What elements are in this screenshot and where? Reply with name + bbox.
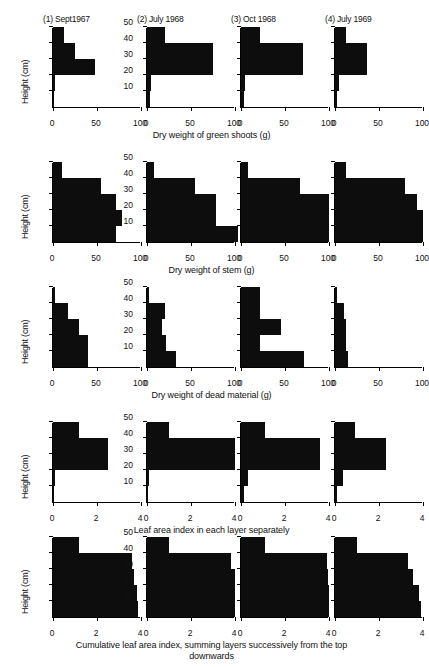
bar-layer-0-10 bbox=[241, 91, 244, 107]
plot-area: 1020304050 bbox=[52, 163, 140, 243]
x-tick bbox=[335, 502, 336, 506]
bar-layer-20-30 bbox=[335, 194, 417, 210]
panel-row1-col4: 050100 bbox=[334, 28, 422, 108]
panel-row4-col4: 024 bbox=[334, 423, 422, 503]
y-tick-label: 40 bbox=[124, 543, 133, 553]
panel-row5-col2: 024 bbox=[146, 538, 234, 618]
bar-group bbox=[241, 28, 328, 107]
bar-group bbox=[241, 538, 328, 617]
bar-layer-30-40 bbox=[147, 178, 195, 194]
x-tick-label: 0 bbox=[50, 628, 55, 638]
y-tick bbox=[237, 90, 241, 91]
y-tick bbox=[331, 42, 335, 43]
bar-group bbox=[241, 163, 328, 242]
panel-title-4: (4) July 1969 bbox=[325, 14, 372, 24]
bar-layer-40-50 bbox=[335, 27, 346, 43]
y-tick bbox=[331, 26, 335, 27]
x-tick bbox=[53, 617, 54, 621]
y-tick bbox=[143, 334, 147, 335]
y-tick bbox=[49, 421, 53, 422]
y-tick bbox=[143, 74, 147, 75]
bar-group bbox=[241, 288, 328, 367]
y-tick bbox=[143, 568, 147, 569]
x-tick bbox=[141, 242, 142, 246]
x-tick bbox=[379, 502, 380, 506]
x-tick bbox=[141, 107, 142, 111]
y-tick bbox=[49, 600, 53, 601]
panel-title-1: (1) Sept1967 bbox=[43, 14, 90, 24]
x-tick-label: 0 bbox=[144, 513, 149, 523]
bar-layer-0-10 bbox=[335, 486, 337, 502]
panel-row3-col4: 050100 bbox=[334, 288, 422, 368]
y-tick bbox=[331, 318, 335, 319]
y-tick bbox=[237, 26, 241, 27]
x-axis-caption-row1: Dry weight of green shoots (g) bbox=[0, 130, 423, 140]
y-tick bbox=[237, 161, 241, 162]
bar-layer-20-30 bbox=[147, 319, 162, 335]
caption-line-2: downwards bbox=[0, 651, 423, 662]
x-tick bbox=[147, 617, 148, 621]
bar-layer-20-30 bbox=[335, 319, 346, 335]
x-tick-label: 100 bbox=[415, 118, 429, 128]
y-tick-label: 10 bbox=[124, 216, 133, 226]
plot-area bbox=[146, 28, 234, 108]
y-tick bbox=[237, 302, 241, 303]
x-tick bbox=[285, 107, 286, 111]
bar-layer-40-50 bbox=[53, 422, 79, 438]
plot-area bbox=[240, 288, 328, 368]
y-tick bbox=[331, 469, 335, 470]
bar-layer-10-20 bbox=[335, 210, 423, 226]
bar-layer-10-20 bbox=[241, 585, 329, 601]
y-tick bbox=[237, 209, 241, 210]
x-tick bbox=[235, 242, 236, 246]
x-tick bbox=[235, 502, 236, 506]
x-tick bbox=[191, 502, 192, 506]
x-tick-label: 50 bbox=[279, 253, 288, 263]
panel-row5-col3: 024 bbox=[240, 538, 328, 618]
x-tick bbox=[141, 617, 142, 621]
x-tick-label: 4 bbox=[232, 513, 237, 523]
y-tick bbox=[143, 600, 147, 601]
bar-layer-0-10 bbox=[335, 226, 423, 242]
x-tick bbox=[141, 502, 142, 506]
plot-area bbox=[146, 423, 234, 503]
bar-layer-30-40 bbox=[53, 303, 68, 319]
y-tick bbox=[237, 453, 241, 454]
x-tick bbox=[423, 502, 424, 506]
bar-layer-10-20 bbox=[53, 210, 122, 226]
y-tick-label: 50 bbox=[124, 412, 133, 422]
y-tick bbox=[237, 193, 241, 194]
y-tick-label: 10 bbox=[124, 591, 133, 601]
x-tick bbox=[191, 617, 192, 621]
bar-layer-10-20 bbox=[147, 210, 216, 226]
bar-layer-40-50 bbox=[241, 287, 260, 303]
y-tick bbox=[237, 286, 241, 287]
y-tick bbox=[49, 177, 53, 178]
bar-layer-0-10 bbox=[147, 91, 150, 107]
x-tick bbox=[335, 107, 336, 111]
y-tick bbox=[49, 318, 53, 319]
bar-layer-30-40 bbox=[53, 43, 75, 59]
y-axis-label-row5: Height (cm) bbox=[20, 570, 30, 614]
y-tick bbox=[331, 536, 335, 537]
y-tick bbox=[49, 26, 53, 27]
x-tick-label: 100 bbox=[415, 253, 429, 263]
x-tick-label: 0 bbox=[332, 378, 337, 388]
x-tick bbox=[147, 502, 148, 506]
y-tick bbox=[143, 26, 147, 27]
y-tick bbox=[237, 421, 241, 422]
y-tick bbox=[49, 469, 53, 470]
x-tick-label: 50 bbox=[373, 118, 382, 128]
x-tick-label: 50 bbox=[373, 253, 382, 263]
x-tick-label: 50 bbox=[279, 118, 288, 128]
y-tick bbox=[143, 225, 147, 226]
bar-layer-10-20 bbox=[335, 585, 419, 601]
y-tick-label: 30 bbox=[124, 444, 133, 454]
plot-area: 1020304050 bbox=[52, 28, 140, 108]
bar-layer-0-10 bbox=[53, 351, 88, 367]
bar-layer-10-20 bbox=[335, 335, 346, 351]
bar-layer-0-10 bbox=[147, 226, 238, 242]
bar-layer-40-50 bbox=[241, 422, 265, 438]
x-tick bbox=[235, 367, 236, 371]
y-tick bbox=[237, 58, 241, 59]
